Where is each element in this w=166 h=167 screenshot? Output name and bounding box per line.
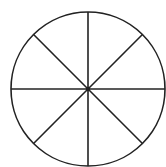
center-point [86,87,90,91]
divided-circle-diagram [0,0,166,167]
